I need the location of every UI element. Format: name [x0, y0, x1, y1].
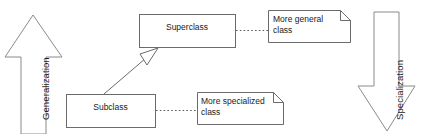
note-label-more-specialized-class: More specialized class [201, 96, 283, 117]
class-label-subclass: Subclass [66, 102, 155, 113]
generalization-block-arrow [5, 15, 62, 134]
specialization-block-arrow [358, 12, 415, 131]
specialization-arrow-label: Specialization [394, 60, 405, 120]
class-label-superclass: Superclass [139, 22, 235, 33]
uml-generalization-diagram: Generalization Specialization Superclass… [0, 0, 424, 134]
generalization-arrow-label: Generalization [40, 57, 51, 120]
generalization-connector-line [104, 58, 146, 94]
generalization-hollow-triangle-arrowhead [140, 48, 158, 65]
note-label-more-general-class: More general class [273, 14, 347, 35]
